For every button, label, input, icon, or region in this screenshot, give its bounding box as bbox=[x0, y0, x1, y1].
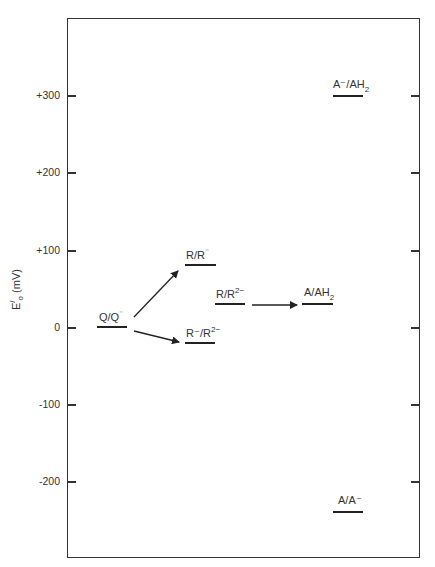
arrow-q-to-r-minus-r-2minus bbox=[134, 331, 179, 342]
arrows-layer bbox=[0, 0, 435, 567]
arrow-q-to-r-r-minus bbox=[134, 271, 178, 317]
